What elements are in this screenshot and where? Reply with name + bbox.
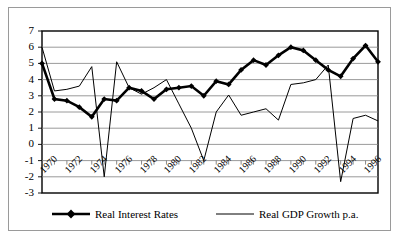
y-axis-label: 2: [12, 106, 34, 117]
legend-item-real-interest-rates: Real Interest Rates: [50, 205, 178, 223]
chart-legend: Real Interest Rates Real GDP Growth p.a.: [42, 205, 372, 225]
y-axis-label: 6: [12, 41, 34, 52]
y-axis-label: 4: [12, 74, 34, 85]
y-axis-label: 7: [12, 25, 34, 36]
legend-label-real-gdp-growth: Real GDP Growth p.a.: [259, 208, 359, 220]
y-axis-label: -2: [12, 171, 34, 182]
y-axis-label: -1: [12, 155, 34, 166]
y-axis-label: 5: [12, 57, 34, 68]
legend-marker-line-icon: [214, 207, 256, 221]
legend-marker-diamond-icon: [50, 207, 92, 221]
y-axis-label: 0: [12, 138, 34, 149]
y-axis-label: 1: [12, 122, 34, 133]
legend-label-real-interest-rates: Real Interest Rates: [95, 208, 178, 220]
y-axis-label: 3: [12, 90, 34, 101]
y-axis-label: -3: [12, 187, 34, 198]
legend-item-real-gdp-growth: Real GDP Growth p.a.: [214, 205, 359, 223]
